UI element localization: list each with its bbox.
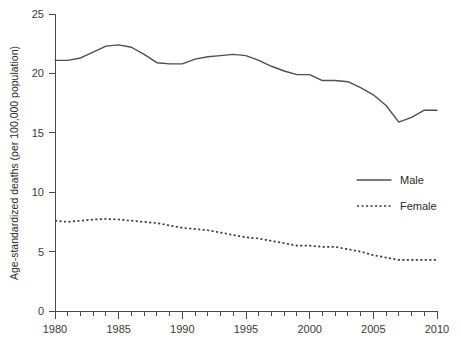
chart-legend: MaleFemale bbox=[357, 174, 437, 212]
series-line-female bbox=[55, 219, 437, 260]
y-tick-label: 15 bbox=[32, 127, 44, 139]
series-line-male bbox=[55, 45, 437, 122]
y-axis-title: Age-standardized deaths (per 100,000 pop… bbox=[8, 46, 20, 280]
y-tick-label: 10 bbox=[32, 186, 44, 198]
x-axis-group: 1980198519901995200020052010 bbox=[43, 311, 449, 335]
legend-label-male: Male bbox=[400, 174, 424, 186]
x-tick-label: 1985 bbox=[106, 323, 130, 335]
y-tick-label: 0 bbox=[38, 305, 44, 317]
x-tick-label: 1990 bbox=[170, 323, 194, 335]
x-tick-label: 1980 bbox=[43, 323, 67, 335]
series-group bbox=[55, 45, 437, 260]
x-tick-label: 2010 bbox=[425, 323, 449, 335]
x-tick-label: 1995 bbox=[234, 323, 258, 335]
y-tick-label: 25 bbox=[32, 8, 44, 20]
x-tick-label: 2005 bbox=[361, 323, 385, 335]
legend-label-female: Female bbox=[400, 200, 437, 212]
chart-container: 0510152025 Age-standardized deaths (per … bbox=[0, 0, 461, 342]
y-tick-label: 20 bbox=[32, 67, 44, 79]
y-axis-group: 0510152025 Age-standardized deaths (per … bbox=[8, 8, 55, 317]
y-tick-group: 0510152025 bbox=[32, 8, 55, 317]
x-tick-group: 1980198519901995200020052010 bbox=[43, 311, 449, 335]
y-tick-label: 5 bbox=[38, 246, 44, 258]
line-chart: 0510152025 Age-standardized deaths (per … bbox=[0, 0, 461, 342]
x-tick-label: 2000 bbox=[297, 323, 321, 335]
